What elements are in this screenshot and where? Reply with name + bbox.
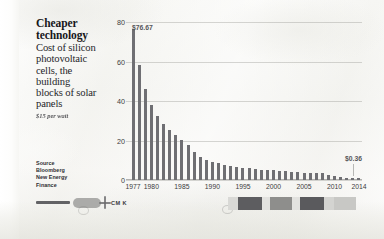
x-axis-tick-2000: 2000 <box>266 183 281 190</box>
bar-1997 <box>254 169 257 180</box>
y-axis-tick-60: 60 <box>117 57 125 66</box>
bar-1994 <box>235 167 238 180</box>
bar-1995 <box>241 168 244 180</box>
bar-1980 <box>150 105 153 180</box>
bar-2008 <box>321 173 324 180</box>
x-axis-tick-1977: 1977 <box>125 183 140 190</box>
bar-1985 <box>180 140 183 180</box>
bar-1981 <box>156 116 159 180</box>
y-axis-tick-40: 40 <box>117 97 125 106</box>
bar-1978 <box>138 65 141 180</box>
source-line-1: Bloomberg <box>36 167 96 174</box>
color-swatch-4 <box>270 197 292 210</box>
bar-1992 <box>223 165 226 180</box>
y-axis-tick-0: 0 <box>121 176 125 185</box>
annotation-max-value: $76.67 <box>132 24 153 31</box>
unit-note: $15 per watt <box>36 112 98 119</box>
gridline-60 <box>126 62 362 63</box>
scanned-page: Cheaper technology Cost of silicon photo… <box>0 0 384 239</box>
x-axis-tick-1990: 1990 <box>205 183 220 190</box>
bar-1983 <box>168 130 171 180</box>
bar-2009 <box>327 175 330 180</box>
bar-1988 <box>199 157 202 180</box>
bar-2000 <box>272 170 275 180</box>
gridline-0 <box>126 180 362 181</box>
source-line-2: New Energy <box>36 174 96 181</box>
source-line-3: Finance <box>36 182 96 189</box>
bar-2001 <box>278 171 281 180</box>
bar-1987 <box>193 152 196 180</box>
bar-2006 <box>309 173 312 180</box>
bar-2007 <box>315 173 318 180</box>
source-label: Source <box>36 160 96 167</box>
bar-1984 <box>174 135 177 180</box>
x-axis-tick-2010: 2010 <box>327 183 342 190</box>
color-swatch-3 <box>262 197 270 210</box>
color-swatch-7 <box>324 197 334 210</box>
x-axis-tick-1985: 1985 <box>174 183 189 190</box>
color-swatch-8 <box>334 197 356 210</box>
annotation-min-leader <box>353 164 354 176</box>
chart-plot-area: 020406080 197719801985199019952000200520… <box>130 22 362 180</box>
bar-2010 <box>333 176 336 180</box>
bar-2013 <box>351 178 354 180</box>
headline-line-2: technology <box>36 29 88 41</box>
article-text-block: Cheaper technology Cost of silicon photo… <box>36 18 98 119</box>
gridline-80 <box>126 22 362 23</box>
bar-2014 <box>357 178 360 180</box>
bar-1993 <box>229 166 232 180</box>
bar-1989 <box>205 160 208 180</box>
print-registration-rule <box>36 201 70 204</box>
x-axis-tick-1980: 1980 <box>144 183 159 190</box>
bar-2003 <box>290 172 293 180</box>
registration-cross-horizontal <box>99 202 111 204</box>
gridline-40 <box>126 101 362 102</box>
print-mark-left <box>78 206 89 215</box>
print-color-swatches <box>228 197 356 210</box>
x-axis-tick-2005: 2005 <box>296 183 311 190</box>
bar-2011 <box>339 177 342 180</box>
bar-2004 <box>296 172 299 180</box>
bar-1998 <box>260 170 263 180</box>
bar-1999 <box>266 170 269 180</box>
bar-1982 <box>162 124 165 180</box>
x-axis-tick-1995: 1995 <box>235 183 250 190</box>
color-swatch-5 <box>292 197 300 210</box>
color-swatch-1 <box>228 197 238 210</box>
bar-2005 <box>303 173 306 180</box>
headline-line-1: Cheaper <box>36 17 77 29</box>
bar-1990 <box>211 162 214 180</box>
annotation-min-value: $0.36 <box>345 155 362 162</box>
bar-2012 <box>345 178 348 180</box>
color-swatch-6 <box>300 197 324 210</box>
print-color-code-label: CM K <box>111 200 127 206</box>
bar-1991 <box>217 163 220 180</box>
bar-1986 <box>187 145 190 180</box>
bar-1996 <box>248 168 251 180</box>
source-attribution: Source Bloomberg New Energy Finance <box>36 160 96 189</box>
chart-description: Cost of silicon photovoltaic cells, the … <box>36 42 98 110</box>
y-axis-tick-80: 80 <box>117 18 125 27</box>
color-swatch-2 <box>238 197 262 210</box>
y-axis-tick-20: 20 <box>117 136 125 145</box>
x-axis-tick-2014: 2014 <box>351 183 366 190</box>
bar-1977 <box>132 29 135 180</box>
page-title: Cheaper technology <box>36 18 98 41</box>
bar-1979 <box>144 89 147 180</box>
bar-2002 <box>284 171 287 180</box>
